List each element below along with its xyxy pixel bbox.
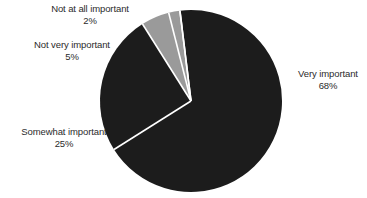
pie-label-not-at-all-important-value: 2% [32,15,148,27]
pie-label-very-important: Very important 68% [290,68,366,91]
pie-label-not-very-important-value: 5% [14,51,130,63]
pie-chart-graphic [0,0,367,198]
pie-label-somewhat-important-name: Somewhat important [2,126,126,138]
pie-label-not-very-important-name: Not very important [14,39,130,51]
pie-label-very-important-name: Very important [290,68,366,80]
pie-label-not-at-all-important-name: Not at all important [32,3,148,15]
pie-label-very-important-value: 68% [290,80,366,92]
pie-label-not-at-all-important: Not at all important 2% [32,3,148,26]
pie-label-not-very-important: Not very important 5% [14,39,130,62]
pie-label-somewhat-important: Somewhat important 25% [2,126,126,149]
pie-label-somewhat-important-value: 25% [2,138,126,150]
pie-chart-figure: Not at all important 2% Not very importa… [0,0,367,198]
